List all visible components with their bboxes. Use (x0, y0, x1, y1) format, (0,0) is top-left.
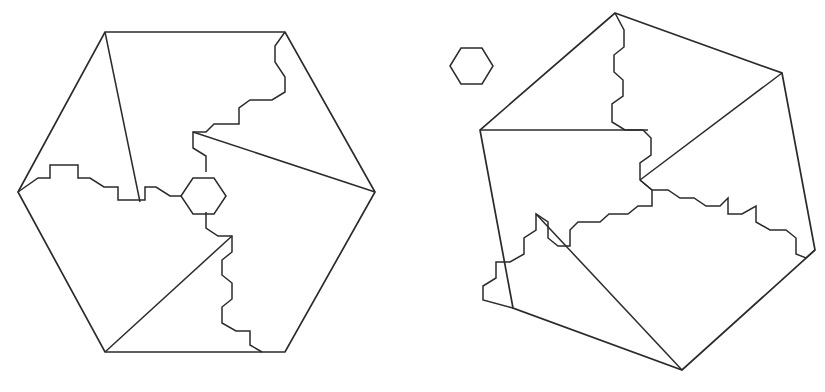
dissection-diagram (0, 0, 825, 392)
figure-canvas (0, 0, 825, 392)
diagram-background (0, 0, 825, 392)
